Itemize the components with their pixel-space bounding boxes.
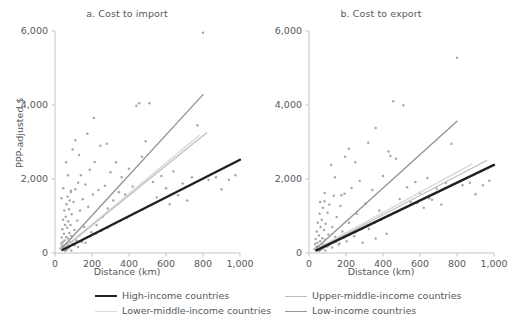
scatter-point	[128, 167, 131, 170]
y-tick-label: 6,000	[21, 25, 48, 36]
scatter-point	[69, 199, 72, 202]
legend-line-swatch	[95, 295, 117, 297]
scatter-point	[172, 170, 175, 173]
legend-label: Low-income countries	[312, 305, 416, 317]
scatter-point	[323, 192, 326, 195]
scatter-point	[220, 188, 223, 191]
scatter-point	[72, 201, 75, 204]
legend-item[interactable]: Low-income countries	[285, 305, 461, 317]
trend-line	[316, 121, 457, 248]
scatter-point	[331, 226, 334, 229]
scatter-point	[63, 233, 66, 236]
scatter-point	[106, 143, 109, 146]
scatter-point	[115, 161, 118, 164]
scatter-point	[62, 187, 64, 190]
scatter-point	[324, 249, 327, 252]
scatter-point	[152, 181, 155, 184]
scatter-point	[353, 235, 356, 238]
scatter-point	[482, 184, 485, 187]
scatter-points	[59, 32, 236, 252]
trend-line	[316, 165, 494, 250]
scatter-point	[60, 197, 63, 200]
scatter-point	[94, 161, 97, 164]
scatter-point	[95, 224, 98, 227]
scatter-point	[118, 191, 121, 194]
scatter-point	[66, 196, 69, 199]
scatter-point	[338, 242, 341, 245]
scatter-point	[168, 203, 171, 206]
scatter-point	[66, 227, 69, 230]
scatter-point	[148, 102, 151, 105]
scatter-point	[196, 124, 199, 127]
trend-line	[316, 161, 486, 250]
scatter-point	[331, 246, 334, 249]
scatter-point	[92, 193, 95, 196]
scatter-point	[371, 189, 374, 192]
scatter-point	[319, 201, 322, 204]
scatter-point	[422, 207, 425, 210]
scatter-point	[97, 189, 100, 192]
legend-item[interactable]: Upper-middle-income countries	[285, 290, 461, 302]
scatter-point	[402, 104, 405, 107]
scatter-point	[65, 161, 68, 164]
scatter-point	[135, 104, 138, 107]
chart-legend: High-income countriesUpper-middle-income…	[0, 288, 508, 331]
scatter-point	[382, 175, 385, 178]
scatter-point	[70, 249, 73, 252]
y-tick-label: 2,000	[21, 173, 48, 184]
scatter-point	[93, 117, 96, 120]
scatter-point	[99, 144, 102, 147]
scatter-point	[79, 209, 82, 212]
scatter-point	[82, 198, 85, 201]
scatter-point	[450, 143, 453, 146]
panel-b-x-axis-label: Distance (km)	[254, 266, 508, 277]
scatter-point	[181, 182, 184, 185]
scatter-point	[321, 218, 324, 221]
scatter-point	[63, 209, 66, 212]
scatter-point	[106, 207, 109, 210]
scatter-point	[392, 100, 395, 103]
scatter-point	[398, 198, 401, 201]
scatter-point	[207, 178, 210, 181]
legend-item[interactable]: High-income countries	[95, 290, 271, 302]
y-tick-label: 0	[296, 247, 302, 258]
legend-line-swatch	[285, 311, 307, 312]
scatter-point	[344, 156, 347, 159]
scatter-point	[326, 211, 329, 214]
scatter-point	[340, 194, 343, 197]
panel-a-x-axis-label: Distance (km)	[0, 266, 254, 277]
scatter-point	[131, 185, 134, 188]
scatter-point	[387, 150, 390, 153]
scatter-point	[385, 233, 388, 236]
scatter-point	[144, 140, 147, 143]
scatter-point	[177, 194, 180, 197]
trend-line	[62, 133, 206, 250]
scatter-point	[314, 243, 317, 246]
scatter-point	[348, 147, 351, 150]
scatter-point	[109, 171, 112, 174]
scatter-point	[324, 223, 327, 226]
scatter-point	[348, 221, 351, 224]
scatter-point	[318, 213, 321, 216]
scatter-point	[191, 176, 194, 179]
scatter-point	[343, 193, 346, 196]
legend-item[interactable]: Lower-middle-income countries	[95, 305, 271, 317]
scatter-point	[63, 239, 66, 242]
scatter-point	[165, 187, 168, 190]
scatter-point	[426, 177, 429, 180]
scatter-point	[65, 203, 68, 206]
scatter-point	[474, 193, 477, 196]
scatter-point	[67, 174, 70, 177]
panel-b-plot-area: 02,0004,0006,00002004006008001,000	[254, 0, 508, 290]
scatter-point	[71, 148, 74, 151]
scatter-point	[316, 230, 319, 233]
scatter-point	[70, 213, 73, 216]
scatter-point	[84, 183, 87, 186]
y-tick-label: 0	[42, 247, 48, 258]
scatter-point	[104, 184, 107, 187]
scatter-point	[202, 32, 205, 35]
legend-label: High-income countries	[122, 290, 229, 302]
scatter-point	[374, 127, 377, 130]
scatter-point	[368, 228, 371, 231]
scatter-point	[215, 176, 218, 179]
